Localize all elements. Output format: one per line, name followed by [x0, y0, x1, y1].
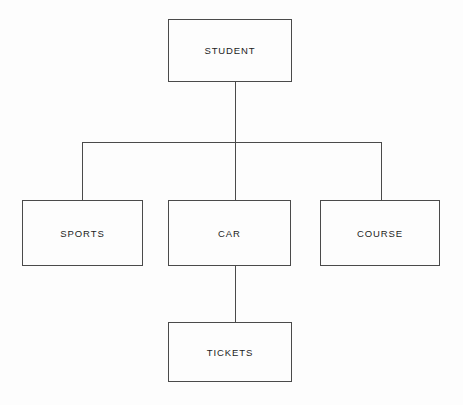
edge-car-to-tickets [235, 266, 236, 322]
node-student[interactable]: STUDENT [168, 19, 292, 82]
edge-horizontal-bus [82, 142, 382, 143]
node-tickets-label: TICKETS [207, 347, 253, 358]
edge-student-to-bus [235, 82, 236, 142]
edge-bus-to-course [381, 142, 382, 200]
diagram-canvas: STUDENT SPORTS CAR COURSE TICKETS [0, 0, 463, 405]
edge-bus-to-car [235, 142, 236, 200]
node-sports-label: SPORTS [60, 228, 104, 239]
node-course-label: COURSE [357, 228, 403, 239]
node-sports[interactable]: SPORTS [22, 200, 143, 266]
node-car-label: CAR [218, 228, 241, 239]
node-student-label: STUDENT [204, 45, 255, 56]
node-tickets[interactable]: TICKETS [168, 322, 292, 382]
node-car[interactable]: CAR [168, 200, 291, 266]
node-course[interactable]: COURSE [320, 200, 440, 266]
edge-bus-to-sports [82, 142, 83, 200]
